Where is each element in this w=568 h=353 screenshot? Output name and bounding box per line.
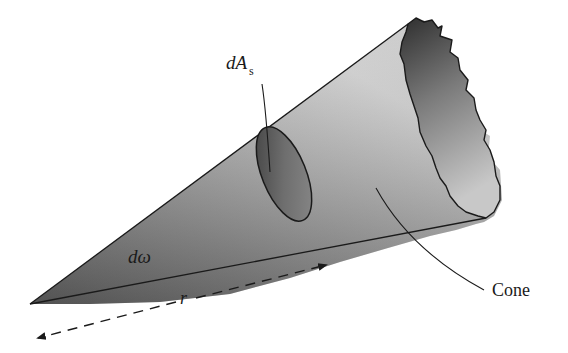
area-label-text: dA bbox=[226, 52, 247, 73]
area-label: dAs bbox=[226, 52, 252, 74]
solid-angle-label: dω bbox=[128, 246, 151, 268]
cone-label: Cone bbox=[492, 280, 530, 301]
cone-diagram bbox=[0, 0, 568, 353]
radius-arrow-left bbox=[38, 302, 176, 338]
radius-label: r bbox=[180, 288, 187, 309]
area-label-subscript: s bbox=[249, 64, 254, 78]
